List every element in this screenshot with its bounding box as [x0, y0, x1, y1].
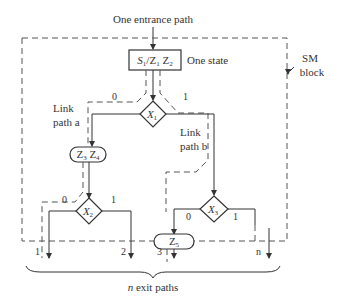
sm-label-line2: block [300, 66, 325, 78]
x2-branch-1: 1 [111, 194, 116, 205]
state-note: One state [187, 54, 228, 66]
link-path-a-line1: Link [53, 102, 74, 114]
exit-caption: n exit paths [128, 281, 179, 293]
sm-label-line1: SM [302, 52, 318, 64]
x1-0-to-z3z4 [92, 114, 140, 146]
exit-brace [26, 266, 280, 278]
state-label: S1/Z1 Z2 [137, 54, 173, 68]
x3-branch-0: 0 [186, 211, 191, 222]
exit-2-arrow [102, 211, 131, 258]
link-path-b-line2: path b [180, 140, 208, 152]
link-path-b-line1: Link [180, 126, 201, 138]
sm-block-diagram: One entrance path SM block S1/Z1 Z2 One … [0, 0, 353, 305]
x1-branch-0: 0 [112, 91, 117, 102]
link-path-a-line2: path a [53, 116, 80, 128]
link-path-a-outline [88, 70, 146, 145]
sm-pointer-segment [290, 67, 294, 71]
exit-label-n: n [256, 246, 261, 257]
exit-label-1: 1 [35, 246, 40, 257]
x3-branch-1: 1 [233, 211, 238, 222]
exit-label-3: 3 [157, 246, 162, 257]
entrance-label: One entrance path [113, 13, 194, 25]
x2-branch-0: 0 [62, 194, 67, 205]
x1-branch-1: 1 [183, 91, 188, 102]
exit-1-arrow [49, 211, 76, 258]
exit-label-2: 2 [121, 246, 126, 257]
